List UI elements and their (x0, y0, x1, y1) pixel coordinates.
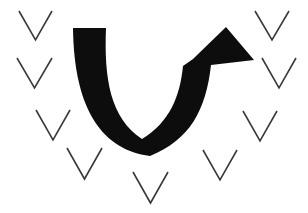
illustration-canvas: U-Turn Arrow with Chevron Marks A thick … (0, 0, 308, 213)
background-rect (0, 0, 308, 213)
u-turn-arrow-graphic: A thick black arrow curving downward in … (0, 0, 308, 213)
